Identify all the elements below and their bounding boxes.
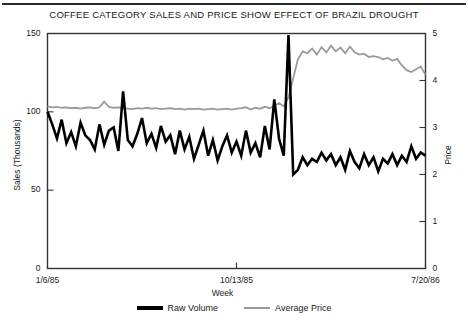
x-tick-label: 7/20/86 [391, 275, 461, 285]
x-tick-label: 1/6/85 [13, 275, 83, 285]
y-tick-label-left: 100 [7, 106, 41, 116]
y-tick-label-left: 50 [7, 184, 41, 194]
y-tick-label-right: 0 [433, 263, 467, 273]
chart-legend: Raw Volume Average Price [0, 303, 468, 313]
x-tick-label: 10/13/85 [202, 275, 272, 285]
legend-swatch-raw-volume-icon [137, 306, 163, 309]
y-tick-label-right: 4 [433, 75, 467, 85]
legend-label-average-price: Average Price [275, 303, 331, 313]
series-line-average-price [48, 46, 426, 110]
y-tick-label-right: 5 [433, 28, 467, 38]
y-tick-label-right: 3 [433, 122, 467, 132]
x-axis-label: Week [140, 288, 305, 298]
legend-item-raw-volume: Raw Volume [137, 303, 219, 313]
y-tick-label-left: 150 [7, 28, 41, 38]
y-tick-label-right: 2 [433, 169, 467, 179]
legend-label-raw-volume: Raw Volume [168, 303, 219, 313]
chart-figure: COFFEE CATEGORY SALES AND PRICE SHOW EFF… [0, 0, 468, 324]
legend-item-average-price: Average Price [244, 303, 331, 313]
y-tick-label-left: 0 [7, 263, 41, 273]
legend-swatch-average-price-icon [244, 307, 270, 309]
plot-frame [48, 34, 426, 269]
y-tick-label-right: 1 [433, 216, 467, 226]
